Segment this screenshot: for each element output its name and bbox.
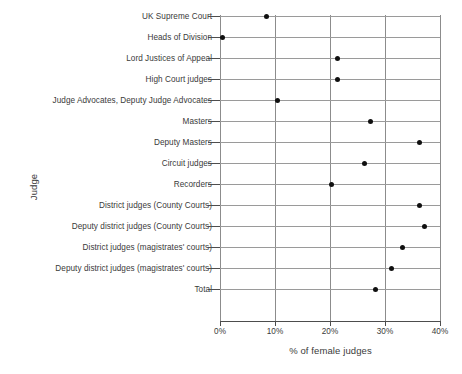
x-tick-label: 30% — [365, 327, 405, 336]
y-tick-mark — [208, 268, 220, 269]
y-gridline — [220, 79, 440, 80]
y-tick-mark — [208, 247, 220, 248]
x-gridline — [220, 15, 221, 322]
x-tick-label: 0% — [200, 327, 240, 336]
y-tick-mark — [208, 16, 220, 17]
y-tick-mark — [208, 37, 220, 38]
y-tick-mark — [208, 121, 220, 122]
y-tick-mark — [208, 163, 220, 164]
y-gridline — [220, 289, 440, 290]
y-gridline — [220, 16, 440, 17]
data-point — [422, 224, 427, 229]
data-point — [335, 56, 340, 61]
data-point — [335, 77, 340, 82]
data-point — [362, 161, 367, 166]
y-gridline — [220, 142, 440, 143]
y-gridline — [220, 163, 440, 164]
x-tick-label: 10% — [255, 327, 295, 336]
x-tick-mark — [385, 321, 386, 326]
x-tick-mark — [440, 321, 441, 326]
y-tick-mark — [208, 100, 220, 101]
y-tick-mark — [208, 289, 220, 290]
y-tick-mark — [208, 226, 220, 227]
x-axis-title: % of female judges — [220, 345, 441, 356]
x-gridline — [440, 15, 441, 322]
data-point — [400, 245, 405, 250]
plot-area — [220, 15, 440, 322]
y-tick-mark — [208, 205, 220, 206]
y-gridline — [220, 100, 440, 101]
data-point — [368, 119, 373, 124]
y-gridline — [220, 121, 440, 122]
data-point — [220, 35, 225, 40]
y-gridline — [220, 37, 440, 38]
x-gridline — [275, 15, 276, 322]
x-tick-mark — [330, 321, 331, 326]
x-tick-mark — [275, 321, 276, 326]
y-gridline — [220, 268, 440, 269]
dot-plot-chart: Judge UK Supreme CourtHeads of DivisionL… — [0, 0, 462, 374]
y-gridline — [220, 58, 440, 59]
x-gridline — [330, 15, 331, 322]
data-point — [417, 140, 422, 145]
x-axis-tick-labels: 0%10%20%30%40% — [0, 327, 462, 341]
x-tick-label: 20% — [310, 327, 350, 336]
y-tick-mark — [208, 184, 220, 185]
y-tick-mark — [208, 142, 220, 143]
data-point — [275, 98, 280, 103]
x-tick-label: 40% — [420, 327, 460, 336]
y-gridline — [220, 226, 440, 227]
y-tick-mark — [208, 58, 220, 59]
data-point — [417, 203, 422, 208]
x-gridline — [385, 15, 386, 322]
data-point — [373, 287, 378, 292]
data-point — [264, 14, 269, 19]
y-tick-mark — [208, 79, 220, 80]
x-tick-mark — [220, 321, 221, 326]
y-gridline — [220, 247, 440, 248]
data-point — [329, 182, 334, 187]
data-point — [389, 266, 394, 271]
y-axis-tick-marks — [0, 15, 220, 322]
y-gridline — [220, 205, 440, 206]
